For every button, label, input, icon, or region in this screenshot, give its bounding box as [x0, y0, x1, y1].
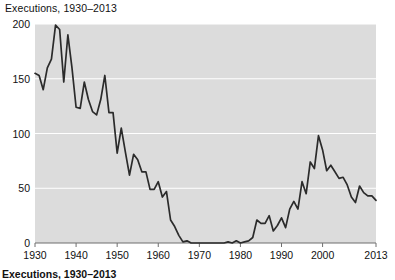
x-tick-label: 1930: [23, 249, 47, 261]
y-tick-label: 200: [12, 18, 30, 30]
x-tick-label: 1970: [188, 249, 212, 261]
figure-caption: Executions, 1930–2013: [2, 268, 116, 280]
x-tick-label: 2013: [364, 249, 388, 261]
x-tick-label: 1980: [229, 249, 253, 261]
x-tick-label: 1990: [270, 249, 294, 261]
x-tick-label: 2000: [311, 249, 335, 261]
x-tick-label: 1950: [105, 249, 129, 261]
y-tick-label: 150: [12, 73, 30, 85]
x-tick-label: 1960: [147, 249, 171, 261]
x-axis-tick-labels: 193019401950196019701980199020002013: [23, 249, 388, 261]
y-tick-label: 100: [12, 128, 30, 140]
chart-plot-area: 050100150200 193019401950196019701980199…: [0, 0, 395, 280]
executions-line-chart: Executions, 1930–2013 050100150200 19301…: [0, 0, 395, 280]
y-axis-tick-labels: 050100150200: [12, 18, 30, 249]
y-tick-label: 0: [24, 237, 30, 249]
y-tick-label: 50: [18, 182, 30, 194]
x-tick-label: 1940: [64, 249, 88, 261]
